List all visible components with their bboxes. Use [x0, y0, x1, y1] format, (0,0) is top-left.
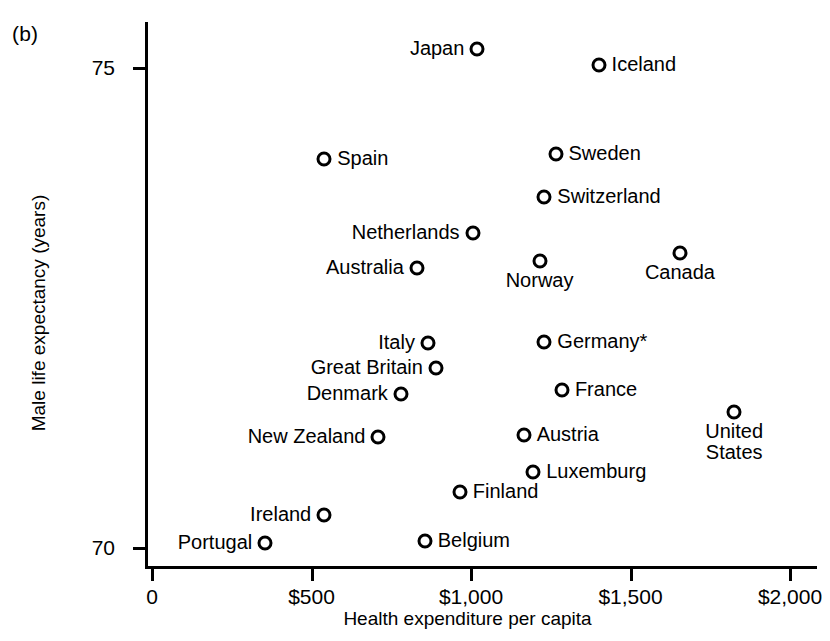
- data-point-marker[interactable]: [470, 41, 485, 56]
- y-tick-75: 75: [133, 67, 145, 70]
- data-point-marker[interactable]: [465, 226, 480, 241]
- y-axis-line: [145, 22, 148, 568]
- y-axis-title: Male life expectancy (years): [28, 103, 50, 523]
- data-point-marker[interactable]: [317, 152, 332, 167]
- data-point-label: Luxemburg: [546, 461, 646, 482]
- panel-label: (b): [12, 22, 38, 46]
- data-point-label: Switzerland: [557, 186, 660, 207]
- data-point-marker[interactable]: [537, 334, 552, 349]
- data-point-marker[interactable]: [420, 335, 435, 350]
- data-point-marker[interactable]: [591, 58, 606, 73]
- y-tick-label: 75: [92, 56, 115, 80]
- x-tick-label: 0: [146, 585, 158, 609]
- data-point-label: United States: [705, 421, 763, 464]
- data-point-label: Finland: [473, 482, 539, 503]
- data-point-marker[interactable]: [554, 382, 569, 397]
- data-point-marker[interactable]: [516, 427, 531, 442]
- x-tick-label: $1,500: [598, 585, 662, 609]
- data-point-label: France: [575, 379, 637, 400]
- data-point-label: Great Britain: [311, 358, 423, 379]
- x-tick-1000: [470, 569, 473, 581]
- data-point-label: Italy: [378, 332, 415, 353]
- scatter-plot-area: 7570 0$500$1,000$1,500$2,000 JapanIcelan…: [145, 22, 817, 566]
- data-point-label: Australia: [326, 257, 404, 278]
- data-point-label: Belgium: [438, 531, 510, 552]
- data-point-marker[interactable]: [532, 253, 547, 268]
- data-point-marker[interactable]: [417, 534, 432, 549]
- data-point-marker[interactable]: [526, 465, 541, 480]
- y-tick-70: 70: [133, 547, 145, 550]
- data-point-label: Ireland: [250, 505, 311, 526]
- data-point-marker[interactable]: [428, 361, 443, 376]
- data-point-label: Denmark: [307, 384, 388, 405]
- x-axis-title: Health expenditure per capita: [145, 608, 790, 630]
- data-point-marker[interactable]: [371, 429, 386, 444]
- data-point-label: New Zealand: [248, 426, 366, 447]
- data-point-marker[interactable]: [727, 404, 742, 419]
- data-point-label: Germany*: [557, 331, 647, 352]
- data-point-marker[interactable]: [409, 260, 424, 275]
- data-point-marker[interactable]: [393, 387, 408, 402]
- x-axis-line: [145, 566, 817, 569]
- data-point-marker[interactable]: [672, 246, 687, 261]
- data-point-label: Iceland: [612, 54, 677, 75]
- x-tick-2000: [789, 569, 792, 581]
- data-point-label: Japan: [410, 38, 465, 59]
- data-point-marker[interactable]: [452, 485, 467, 500]
- data-point-marker[interactable]: [317, 508, 332, 523]
- x-tick-label: $500: [288, 585, 335, 609]
- x-tick-label: $1,000: [439, 585, 503, 609]
- data-point-label: Spain: [337, 148, 388, 169]
- y-tick-label: 70: [92, 536, 115, 560]
- data-point-label: Netherlands: [352, 222, 460, 243]
- data-point-marker[interactable]: [258, 536, 273, 551]
- data-point-marker[interactable]: [537, 189, 552, 204]
- figure-panel-b: (b) Male life expectancy (years) Health …: [0, 0, 830, 641]
- data-point-marker[interactable]: [548, 147, 563, 162]
- data-point-label: Sweden: [569, 144, 641, 165]
- x-tick-label: $2,000: [758, 585, 822, 609]
- x-tick-0: [151, 569, 154, 581]
- x-tick-500: [311, 569, 314, 581]
- data-point-label: Canada: [645, 262, 715, 283]
- data-point-label: Norway: [506, 270, 574, 291]
- data-point-label: Portugal: [178, 532, 253, 553]
- x-tick-1500: [630, 569, 633, 581]
- data-point-label: Austria: [537, 424, 599, 445]
